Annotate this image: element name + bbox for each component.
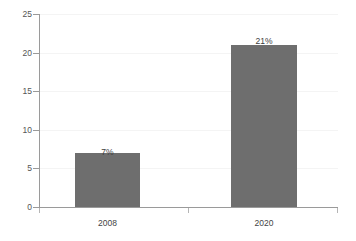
ytick-label-25: 25 xyxy=(8,10,32,19)
ytick-label-20: 20 xyxy=(8,49,32,58)
xtick-mark-right xyxy=(337,208,338,213)
bar-2008 xyxy=(75,153,140,207)
ytick-label-5: 5 xyxy=(8,164,32,173)
y-axis-line xyxy=(39,14,40,208)
category-label-2008: 2008 xyxy=(75,219,140,228)
ytick-label-15: 15 xyxy=(8,87,32,96)
ytick-label-0: 0 xyxy=(8,203,32,212)
category-label-2020: 2020 xyxy=(231,219,297,228)
gridline-25 xyxy=(39,14,338,15)
xtick-mark-left xyxy=(39,208,40,213)
bar-chart: 25 20 15 10 5 0 7% 21% 2008 2020 xyxy=(0,0,356,241)
bar-value-label-2008: 7% xyxy=(75,148,140,157)
bar-2020 xyxy=(231,45,297,207)
bar-value-label-2020: 21% xyxy=(231,37,297,46)
xtick-mark-middle xyxy=(188,208,189,213)
ytick-label-10: 10 xyxy=(8,126,32,135)
